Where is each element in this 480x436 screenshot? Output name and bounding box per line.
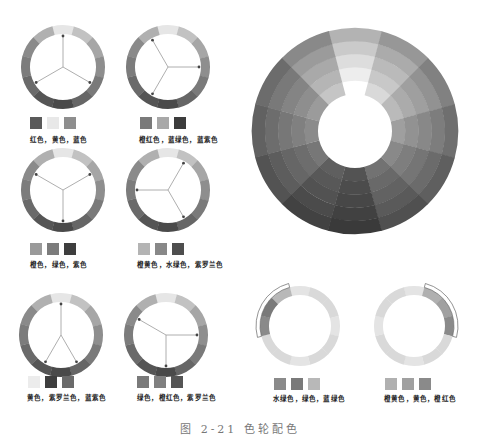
swatch — [157, 117, 169, 129]
swatches-triad-1 — [30, 117, 76, 129]
swatches-triad-3 — [30, 243, 76, 255]
swatch — [291, 378, 303, 390]
wheel-segment — [403, 115, 418, 148]
wheel-segment — [342, 167, 368, 182]
swatch — [64, 243, 76, 255]
swatch — [308, 378, 320, 390]
swatch — [402, 378, 414, 390]
swatch — [274, 378, 286, 390]
swatch — [174, 117, 186, 129]
swatch — [28, 376, 40, 388]
swatch — [64, 117, 76, 129]
swatch — [30, 243, 42, 255]
swatch — [385, 378, 397, 390]
swatch — [155, 243, 167, 255]
swatches-analog-1 — [274, 378, 320, 390]
swatches-split-2 — [137, 376, 183, 388]
wheel-segment — [391, 118, 406, 144]
scheme-label: 水绿色，绿色，蓝绿色 — [273, 393, 345, 403]
swatches-split-1 — [28, 376, 74, 388]
wheel-segment — [338, 179, 371, 194]
swatch — [154, 376, 166, 388]
scheme-label: 橙黄色，水绿色，紫罗兰色 — [137, 259, 223, 269]
scheme-wheel-split-2 — [124, 293, 208, 377]
scheme-wheel-triad-4 — [126, 148, 210, 232]
scheme-wheel-split-1 — [19, 293, 103, 377]
figure-caption: 图 2-21 色轮配色 — [0, 420, 480, 436]
wheel-segment — [305, 118, 320, 144]
scheme-wheel-triad-1 — [21, 25, 105, 109]
wheel-segment — [339, 67, 372, 82]
swatch — [45, 376, 57, 388]
scheme-label: 绿色，橙红色，紫罗兰色 — [137, 392, 216, 402]
scheme-wheel-triad-2 — [126, 25, 210, 109]
swatches-triad-2 — [140, 117, 186, 129]
swatch — [47, 117, 59, 129]
swatch — [137, 376, 149, 388]
wheel-segment — [291, 114, 306, 147]
scheme-label: 橙黄色，黄色，橙红色 — [384, 393, 456, 403]
wheel-segment — [278, 111, 294, 151]
scheme-label: 红色，黄色，蓝色 — [30, 134, 88, 144]
swatch — [140, 117, 152, 129]
swatch — [62, 376, 74, 388]
swatch — [30, 117, 42, 129]
scheme-wheel-analog-2 — [374, 283, 458, 366]
main-color-wheel — [252, 28, 459, 235]
scheme-label: 橙红色，蓝绿色，蓝紫色 — [139, 134, 218, 144]
swatches-analog-2 — [385, 378, 431, 390]
swatch — [172, 243, 184, 255]
wheel-segment — [416, 111, 432, 151]
swatch — [419, 378, 431, 390]
scheme-label: 黄色，紫罗兰色，蓝紫色 — [27, 392, 106, 402]
scheme-label: 橙色，绿色，紫色 — [30, 259, 88, 269]
scheme-wheel-analog-1 — [256, 283, 340, 366]
wheel-segment — [335, 54, 375, 70]
swatch — [138, 243, 150, 255]
swatch — [47, 243, 59, 255]
swatch — [171, 376, 183, 388]
wheel-segment — [335, 192, 375, 208]
swatches-triad-4 — [138, 243, 184, 255]
scheme-wheel-triad-3 — [21, 148, 105, 232]
wheel-segment — [342, 81, 368, 96]
